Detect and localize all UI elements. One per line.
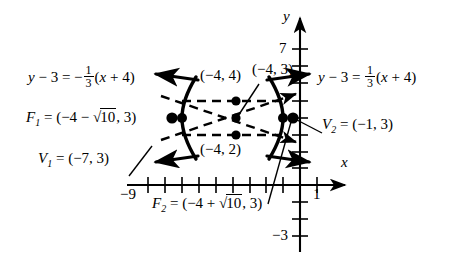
y-axis-label: y	[283, 8, 290, 25]
vertex-2-equation: = (−1, 3)	[336, 116, 393, 132]
graph-canvas	[0, 0, 464, 259]
asymptote-left-label: y − 3 = −13(x + 4)	[28, 64, 135, 90]
focus-1-point	[166, 112, 177, 123]
point-center-label: (−4, 3)	[252, 62, 293, 77]
left-branch-lower-arrow	[156, 156, 198, 162]
asymptote-right-label: y − 3 = 13(x + 4)	[318, 64, 416, 90]
point-minus4-4	[231, 96, 240, 105]
point-top-label: (−4, 4)	[200, 68, 241, 83]
asymptote-left-numerator: 1	[84, 64, 94, 76]
asymptote-left-denominator: 3	[84, 76, 94, 89]
leader-vertex1-label	[129, 146, 152, 176]
vertex-2-point	[278, 113, 288, 123]
point-minus4-2	[231, 130, 240, 139]
left-branch-upper-arrow	[156, 74, 198, 80]
focus-1-name: F	[26, 109, 35, 125]
focus-2-name: F	[152, 195, 161, 211]
focus-1-label: F1 = (−4 − √10, 3)	[26, 110, 136, 128]
focus-2-tail: , 3)	[242, 195, 262, 211]
x-axis-label: x	[341, 154, 348, 171]
plotted-points	[166, 96, 298, 139]
point-bottom-label: (−4, 2)	[200, 142, 241, 157]
vertex-1-label: V1 = (−7, 3)	[38, 151, 109, 169]
focus-2-label: F2 = (−4 + √10, 3)	[152, 196, 262, 214]
focus-2-radicand: 10	[226, 194, 242, 211]
focus-1-equation: = (−4 −	[40, 109, 93, 125]
asymptote-right-denominator: 3	[365, 76, 375, 89]
focus-1-radicand: 10	[100, 108, 116, 125]
focus-2-equation: = (−4 +	[166, 195, 219, 211]
focus-2-point	[287, 112, 298, 123]
vertex-1-name: V	[38, 150, 47, 166]
asymptote-right-numerator: 1	[365, 64, 375, 76]
vertex-2-name: V	[322, 116, 331, 132]
vertex-1-equation: = (−7, 3)	[52, 150, 109, 166]
vertex-2-label: V2 = (−1, 3)	[322, 117, 393, 135]
right-branch-lower-arrow	[267, 156, 309, 162]
hyperbola-figure: y − 3 = −13(x + 4) y − 3 = 13(x + 4) F1 …	[0, 0, 464, 259]
x-tick-label-1: 1	[313, 186, 321, 203]
y-tick-label-7: 7	[279, 40, 287, 57]
y-tick-label-minus3: −3	[272, 227, 288, 244]
x-tick-label-minus9: −9	[120, 186, 136, 203]
vertex-1-point	[177, 113, 187, 123]
focus-1-tail: , 3)	[116, 109, 136, 125]
